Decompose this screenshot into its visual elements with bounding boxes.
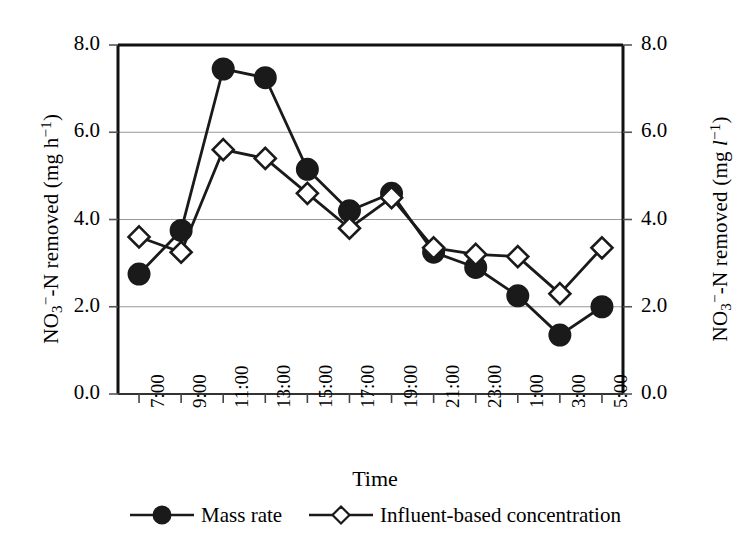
- y-tick-label-right-6.0: 6.0: [641, 118, 703, 143]
- x-tick-label-15:00: 15:00: [315, 365, 337, 408]
- series-line-1: [139, 69, 602, 335]
- legend-marker-open-diamond-icon: [308, 504, 374, 526]
- data-point-s1-3:00: [549, 325, 570, 346]
- x-tick-label-21:00: 21:00: [442, 365, 464, 408]
- x-tick-label-9:00: 9:00: [189, 374, 211, 408]
- y-tick-label-left-6.0: 6.0: [38, 118, 100, 143]
- x-tick-label-11:00: 11:00: [231, 365, 253, 408]
- x-tick-label-5:00: 5:00: [610, 374, 632, 408]
- x-tick-label-23:00: 23:00: [484, 365, 506, 408]
- chart-figure: NO3−-N removed (mg h−1) NO3−-N removed (…: [0, 0, 750, 560]
- legend-item-influent-based-concentration: Influent-based concentration: [308, 504, 621, 526]
- y-tick-label-left-8.0: 8.0: [38, 31, 100, 56]
- chart-legend: Mass rate Influent-based concentration: [0, 504, 750, 526]
- legend-item-mass-rate: Mass rate: [129, 504, 282, 526]
- data-point-s2-11:00: [213, 139, 234, 160]
- x-tick-label-13:00: 13:00: [273, 365, 295, 408]
- x-tick-label-19:00: 19:00: [400, 365, 422, 408]
- legend-marker-filled-circle-icon: [129, 504, 195, 526]
- data-point-s1-13:00: [255, 67, 276, 88]
- y-tick-label-left-0.0: 0.0: [38, 380, 100, 405]
- data-point-s1-1:00: [507, 285, 528, 306]
- data-point-s1-9:00: [171, 220, 192, 241]
- data-point-s2-9:00: [171, 242, 192, 263]
- data-point-s1-5:00: [591, 296, 612, 317]
- x-axis-title: Time: [0, 466, 750, 492]
- y-tick-label-right-2.0: 2.0: [641, 293, 703, 318]
- y-tick-label-left-2.0: 2.0: [38, 293, 100, 318]
- series-line-2: [139, 150, 602, 294]
- data-point-s1-7:00: [129, 264, 150, 285]
- y-tick-label-right-4.0: 4.0: [641, 206, 703, 231]
- legend-label-influent-based-concentration: Influent-based concentration: [380, 505, 621, 526]
- data-point-s2-7:00: [129, 226, 150, 247]
- y-tick-label-right-0.0: 0.0: [641, 380, 703, 405]
- x-tick-label-17:00: 17:00: [357, 365, 379, 408]
- x-tick-label-3:00: 3:00: [568, 374, 590, 408]
- x-tick-label-7:00: 7:00: [147, 374, 169, 408]
- legend-label-mass-rate: Mass rate: [201, 505, 282, 526]
- y-tick-label-right-8.0: 8.0: [641, 31, 703, 56]
- data-point-s1-11:00: [213, 58, 234, 79]
- x-tick-label-1:00: 1:00: [526, 374, 548, 408]
- y-tick-label-left-4.0: 4.0: [38, 206, 100, 231]
- data-point-s1-15:00: [297, 159, 318, 180]
